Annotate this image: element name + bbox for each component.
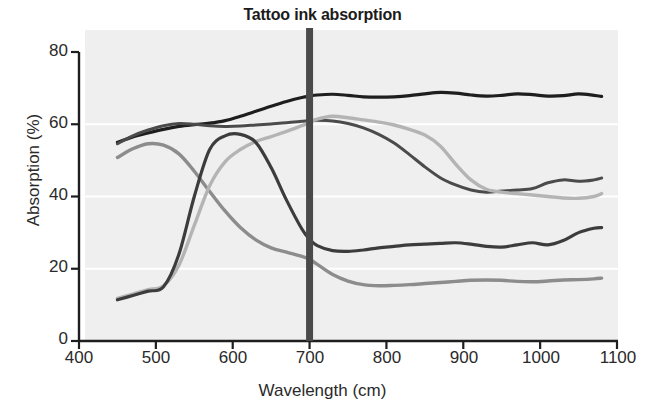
plot-svg: [0, 0, 645, 403]
chart-figure: Tattoo ink absorption Absorption (%) Wav…: [0, 0, 645, 403]
